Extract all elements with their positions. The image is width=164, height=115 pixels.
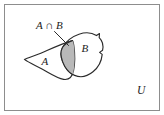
set-b-label: B <box>82 42 89 54</box>
intersection-label: A ∩ B <box>35 19 63 31</box>
set-a-label: A <box>41 55 49 67</box>
universe-label: U <box>137 84 146 96</box>
venn-diagram-figure: A ∩ B A B U <box>0 0 164 115</box>
venn-diagram-screenshot: A ∩ B A B U <box>0 0 164 115</box>
